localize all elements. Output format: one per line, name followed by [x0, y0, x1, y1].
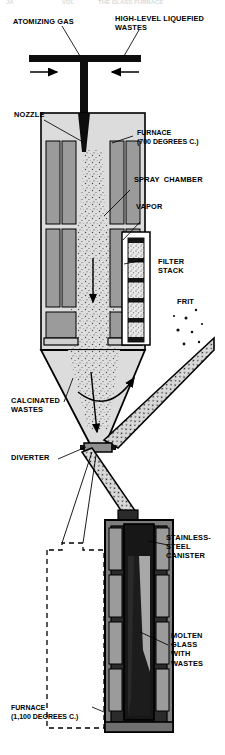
label-frit: FRIT [177, 297, 194, 306]
alternate-canister-outline [47, 543, 104, 728]
label-furnace-700: FURNACE (700 DEGREES C.) [137, 128, 198, 146]
feed-header-assembly [29, 55, 141, 114]
label-high-level-wastes: HIGH-LEVEL LIQUEFIED WASTES [115, 14, 204, 32]
label-furnace-1100: FURNACE (1,100 DEGREES C.) [11, 703, 78, 721]
filter-stack-assembly [122, 232, 150, 345]
label-nozzle: NOZZLE [14, 110, 44, 119]
label-diverter: DIVERTER [11, 453, 50, 462]
label-stainless-canister: STAINLESS- STEEL CANISTER [166, 533, 211, 561]
label-filter-stack: FILTER STACK [158, 257, 184, 275]
label-vapor: VAPOR [136, 202, 162, 211]
frit-particles [173, 309, 203, 346]
label-calcinated-wastes: CALCINATED WASTES [11, 396, 60, 414]
label-molten-glass: MOLTEN GLASS WITH WASTES [171, 631, 203, 668]
label-spray-chamber: SPRAY CHAMBER [134, 175, 203, 184]
label-atomizing-gas: ATOMIZING GAS [13, 17, 74, 26]
diagram-canvas: JA VOL THE GLASS FURNACE [0, 0, 225, 755]
transfer-pipe [82, 448, 138, 524]
melter-and-canister [105, 520, 173, 732]
